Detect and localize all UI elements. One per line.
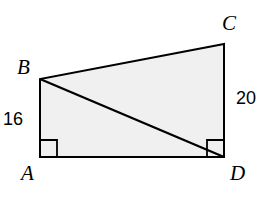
vertex-label-d: D xyxy=(230,163,245,184)
side-length-label-ab: 16 xyxy=(3,110,23,128)
side-length-label-cd: 20 xyxy=(236,89,256,107)
vertex-label-b: B xyxy=(17,57,30,78)
vertex-label-c: C xyxy=(222,13,236,34)
quadrilateral-abcd xyxy=(40,44,224,157)
geometry-figure: A B C D 16 20 xyxy=(0,0,269,199)
vertex-label-a: A xyxy=(21,163,34,184)
